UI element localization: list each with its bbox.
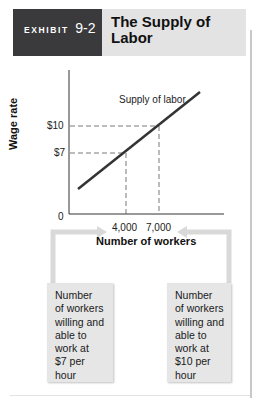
callout-line: hour [55, 369, 113, 382]
x-axis-label: Number of workers [96, 235, 196, 247]
x-tick-7000: 7,000 [146, 222, 171, 233]
left-connector [53, 232, 98, 283]
callout-line: willing and [55, 316, 113, 329]
callout-line: Number [55, 289, 113, 302]
callout-line: hour [175, 369, 231, 382]
origin-label: 0 [58, 211, 64, 222]
y-tick-10: $10 [47, 120, 64, 131]
y-tick-7: $7 [54, 147, 65, 158]
x-tick-4000: 4,000 [112, 222, 137, 233]
callout-10-dollar: Number of workers willing and able to wo… [167, 283, 231, 382]
callout-line: able to [55, 329, 113, 342]
y-axis-label: Wage rate [7, 98, 19, 150]
callout-line: willing and [175, 316, 231, 329]
callout-7-dollar: Number of workers willing and able to wo… [47, 283, 113, 382]
supply-line-label: Supply of labor [119, 94, 186, 105]
callout-line: work at [175, 342, 231, 355]
callout-line: $7 per [55, 355, 113, 368]
callout-line: of workers [55, 302, 113, 315]
callout-line: $10 per [175, 355, 231, 368]
callout-line: of workers [175, 302, 231, 315]
supply-line [78, 92, 200, 189]
reference-lines [70, 126, 159, 214]
callout-line: work at [55, 342, 113, 355]
callout-line: Number [175, 289, 231, 302]
callout-line: able to [175, 329, 231, 342]
